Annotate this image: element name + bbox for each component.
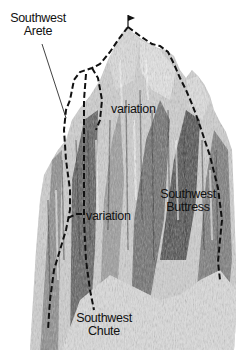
flag-icon [128,15,135,27]
label-variation-upper-text: variation [111,103,156,116]
label-southwest-chute: Southwest Chute [72,312,136,338]
label-southwest-arete: Southwest Arete [8,12,68,38]
label-variation-lower: variation [86,210,131,223]
label-southwest-chute-line2: Chute [72,325,136,338]
label-southwest-buttress-line2: Buttress [156,201,220,214]
label-southwest-arete-line2: Arete [8,25,68,38]
mountain-illustration [0,0,248,355]
label-variation-upper: variation [111,103,156,116]
mountain-route-diagram [0,0,248,355]
label-southwest-buttress: Southwest Buttress [156,188,220,214]
arete-leader-line [42,44,66,118]
label-variation-lower-text: variation [86,210,131,223]
